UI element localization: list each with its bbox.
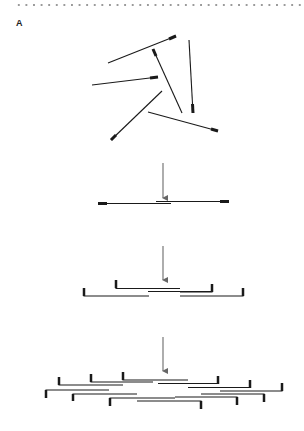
assembly-diagram (0, 0, 304, 431)
fragment-end-cap (211, 129, 218, 131)
fragment (148, 112, 218, 131)
fragment-end-cap (153, 49, 156, 56)
stage-overlapping-pair (98, 202, 229, 204)
bracket-fragment (110, 398, 175, 406)
fragment (111, 91, 162, 140)
fragment (92, 77, 158, 85)
fragment (153, 49, 182, 113)
stage-scattered-fragments (92, 36, 218, 140)
stage-bracketed-assembly (84, 280, 243, 296)
fragment (189, 40, 193, 113)
bracket-fragment (201, 394, 264, 402)
fragment-end-cap (169, 36, 176, 39)
fragment-end-cap (111, 135, 116, 140)
bracket-fragment (116, 280, 180, 289)
fragment-end-cap (150, 77, 158, 78)
bracket-fragment (180, 284, 212, 292)
fragment (108, 36, 176, 63)
stage-extended-assembly (46, 372, 282, 409)
bracket-fragment (137, 401, 201, 409)
bracket-fragment (123, 372, 188, 380)
fragment-end-cap (193, 104, 194, 113)
bracket-fragment (84, 288, 149, 296)
